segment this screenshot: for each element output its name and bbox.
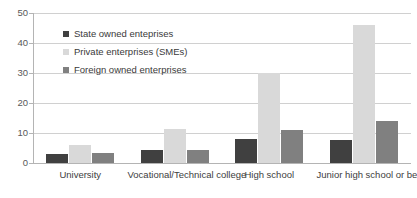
x-axis-label-1: Vocational/Technical college [128, 170, 223, 180]
bar-0-2 [92, 153, 114, 163]
legend: State owned enteprisesPrivate enterprise… [63, 26, 188, 80]
legend-label-2: Foreign owned enterprises [74, 65, 186, 75]
legend-label-1: Private enterprises (SMEs) [74, 47, 188, 57]
gridline-0 [33, 163, 411, 164]
legend-item-1: Private enterprises (SMEs) [63, 44, 188, 59]
legend-swatch-icon-0 [63, 31, 69, 37]
y-axis-label-0: 0 [2, 158, 28, 168]
bar-chart: 01020304050 UniversityVocational/Technic… [0, 0, 417, 198]
legend-swatch-icon-2 [63, 67, 69, 73]
y-axis-label-10: 10 [2, 128, 28, 138]
bar-0-1 [69, 145, 91, 163]
legend-item-2: Foreign owned enterprises [63, 62, 188, 77]
y-axis-label-30: 30 [2, 68, 28, 78]
bar-3-1 [353, 25, 375, 163]
bar-2-1 [258, 73, 280, 163]
legend-label-0: State owned enteprises [74, 29, 173, 39]
bar-1-2 [187, 150, 209, 163]
bar-2-0 [235, 139, 257, 163]
bar-group-3 [330, 13, 398, 163]
bar-1-1 [164, 129, 186, 163]
bar-group-2 [235, 13, 303, 163]
x-axis-label-3: Junior high school or below [317, 170, 412, 180]
legend-item-0: State owned enteprises [63, 26, 188, 41]
bar-2-2 [281, 130, 303, 163]
bar-3-0 [330, 140, 352, 163]
bar-0-0 [46, 154, 68, 163]
bar-1-0 [141, 150, 163, 163]
y-axis-label-50: 50 [2, 8, 28, 18]
x-axis-label-2: High school [222, 170, 317, 180]
y-axis-label-20: 20 [2, 98, 28, 108]
x-axis-label-0: University [33, 170, 128, 180]
y-axis-label-40: 40 [2, 38, 28, 48]
bar-3-2 [376, 121, 398, 163]
legend-swatch-icon-1 [63, 49, 69, 55]
